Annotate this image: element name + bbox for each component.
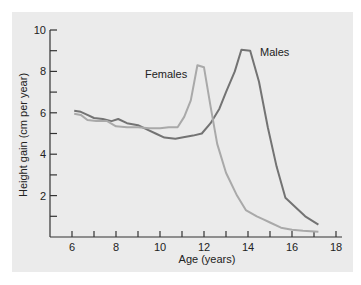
y-tick-label: 4 bbox=[40, 148, 46, 160]
y-tick-label: 8 bbox=[40, 65, 46, 77]
x-tick-label: 12 bbox=[198, 241, 210, 253]
x-tick-label: 16 bbox=[286, 241, 298, 253]
y-axis-title: Height gain (cm per year) bbox=[17, 73, 29, 197]
axes: 246810681012141618 bbox=[34, 24, 342, 253]
y-tick-label: 6 bbox=[40, 107, 46, 119]
y-tick-label: 2 bbox=[40, 190, 46, 202]
x-tick-label: 18 bbox=[330, 241, 342, 253]
y-tick-label: 10 bbox=[34, 24, 46, 36]
x-tick-label: 10 bbox=[154, 241, 166, 253]
x-axis-title: Age (years) bbox=[179, 253, 236, 265]
x-tick-label: 8 bbox=[113, 241, 119, 253]
series-labels: MalesFemales bbox=[145, 46, 290, 80]
series-lines bbox=[74, 50, 318, 232]
x-tick-label: 14 bbox=[242, 241, 254, 253]
x-tick-label: 6 bbox=[69, 241, 75, 253]
line-chart: 246810681012141618 MalesFemales Age (yea… bbox=[0, 0, 361, 285]
series-line-females bbox=[74, 65, 318, 232]
series-label-males: Males bbox=[260, 46, 290, 58]
series-label-females: Females bbox=[145, 68, 188, 80]
